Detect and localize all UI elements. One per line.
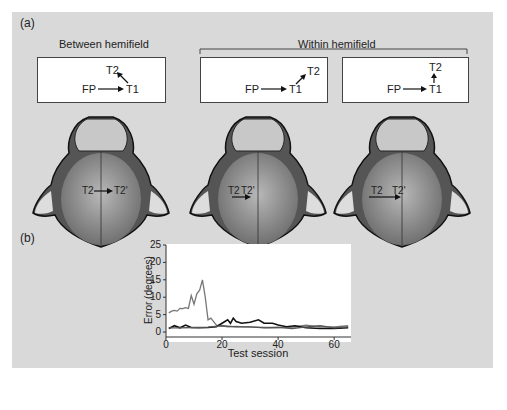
x-axis-label: Test session [228, 347, 289, 359]
svg-text:20: 20 [216, 339, 228, 350]
svg-text:0: 0 [163, 339, 169, 350]
svg-text:0: 0 [155, 326, 161, 337]
y-axis-label: Error (degrees) [143, 256, 154, 324]
figure: (a) Between hemifield Within hemifield F… [0, 0, 507, 410]
error-line-chart: 05101520250204060 Test session Error (de… [0, 0, 507, 410]
svg-text:5: 5 [155, 309, 161, 320]
svg-text:25: 25 [150, 239, 162, 250]
svg-text:60: 60 [329, 339, 341, 350]
